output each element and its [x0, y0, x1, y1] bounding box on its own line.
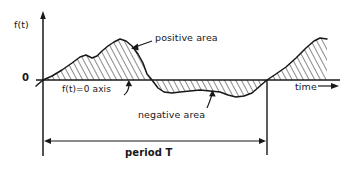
zero-axis-label: f(t)=0 axis	[62, 85, 111, 94]
waveform-figure: f(t) 0 positive area negative area f(t)=…	[0, 0, 350, 174]
positive-area-label: positive area	[155, 33, 218, 43]
period-measure-arrow-right	[259, 138, 266, 144]
y-axis-arrowhead	[40, 11, 46, 19]
y-axis-label: f(t)	[14, 20, 29, 30]
time-axis-arrowhead	[331, 83, 339, 89]
origin-label: 0	[22, 73, 29, 83]
zero-axis-leader-arrowhead	[126, 80, 133, 86]
period-measure-arrow-left	[44, 138, 51, 144]
negative-area-label: negative area	[138, 110, 205, 120]
period-label: period T	[125, 148, 172, 158]
positive-area-fill	[36, 30, 161, 85]
time-axis-label: time	[295, 82, 317, 92]
